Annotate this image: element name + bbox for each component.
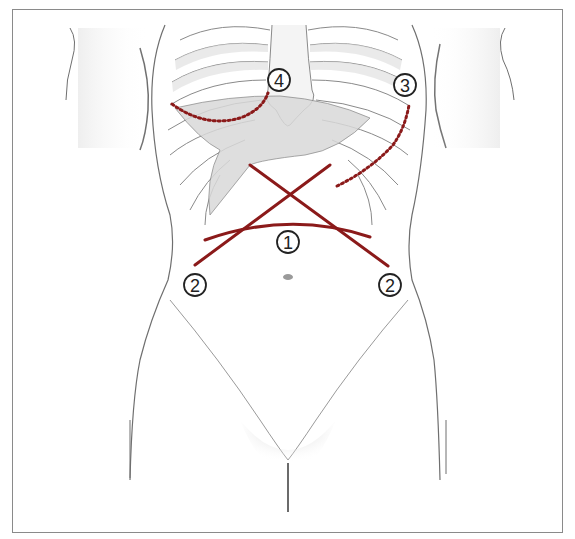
label-2-left-text: 2 [190, 276, 200, 296]
navel [283, 274, 293, 280]
label-4-text: 4 [274, 71, 284, 91]
torso-illustration: 1 2 2 3 4 [0, 0, 575, 539]
label-1: 1 [277, 231, 299, 253]
left-arm [66, 28, 148, 150]
label-3-text: 3 [400, 76, 410, 96]
label-2-left: 2 [184, 274, 206, 296]
label-4: 4 [268, 69, 290, 91]
label-3: 3 [394, 74, 416, 96]
label-2-right: 2 [379, 274, 401, 296]
label-2-right-text: 2 [385, 276, 395, 296]
label-1-text: 1 [283, 233, 293, 253]
